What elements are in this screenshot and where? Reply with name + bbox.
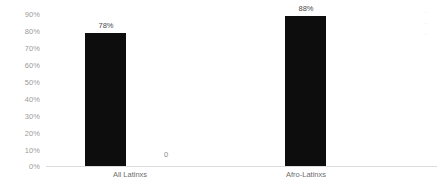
y-axis-tick-70: 70%	[0, 45, 40, 53]
bar-afro-latinxs[interactable]	[285, 16, 326, 166]
y-axis-tick-50: 50%	[0, 79, 40, 87]
bar-value-afro-latinxs: 88%	[280, 4, 332, 13]
y-axis-tick-80: 80%	[0, 28, 40, 36]
y-axis-tick-0: 0%	[0, 163, 40, 171]
y-axis-tick-40: 40%	[0, 96, 40, 104]
y-axis-tick-30: 30%	[0, 113, 40, 121]
y-axis: 90% 80% 70% 60% 50% 40% 30% 20% 10% 0%	[0, 0, 46, 187]
y-axis-tick-10: 10%	[0, 147, 40, 155]
bar-all-latinxs[interactable]	[85, 33, 126, 166]
y-axis-tick-20: 20%	[0, 130, 40, 138]
x-axis-label-afro-latinxs: Afro-Latinxs	[256, 170, 356, 179]
y-axis-tick-60: 60%	[0, 62, 40, 70]
x-axis-label-all-latinxs: All Latinxs	[80, 170, 180, 179]
bar-value-zero: 0	[140, 150, 192, 159]
y-axis-tick-90: 90%	[0, 11, 40, 19]
corner-watermark: ᠃ ᠃ ᠃	[414, 7, 436, 41]
bar-chart: 90% 80% 70% 60% 50% 40% 30% 20% 10% 0% 7…	[0, 0, 445, 187]
bar-value-all-latinxs: 78%	[80, 21, 132, 30]
x-axis-baseline	[46, 166, 437, 167]
plot-area: 78% 0 88% All Latinxs Afro-Latinxs	[46, 0, 445, 187]
